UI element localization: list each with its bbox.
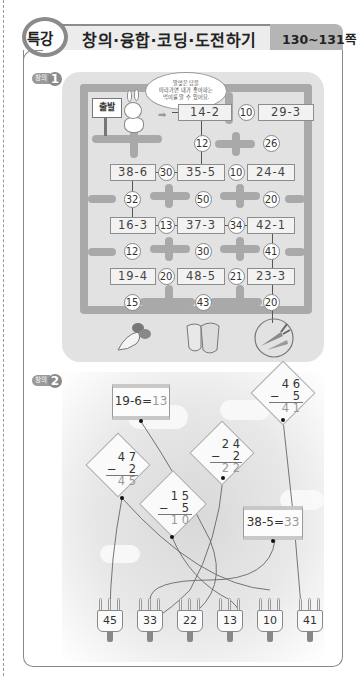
calc-rule	[210, 462, 242, 463]
spool-handle	[307, 632, 313, 642]
string-knot	[221, 476, 225, 480]
minus-sign: −	[159, 501, 169, 515]
spool-10[interactable]: 10	[257, 598, 283, 636]
calc-rule	[106, 475, 138, 476]
box-kite: 19-6=13	[112, 384, 170, 420]
string-knot	[281, 418, 285, 422]
spool-handle	[227, 632, 233, 642]
spool-number: 45	[97, 610, 123, 632]
spool-handle	[107, 632, 113, 642]
kite-expression: 38-5=	[247, 515, 284, 529]
spool-handle	[267, 632, 273, 642]
string-knot	[139, 419, 143, 423]
calc-answer: 2 2	[212, 462, 240, 474]
minus-sign: −	[211, 449, 221, 463]
spool-22[interactable]: 22	[177, 598, 203, 636]
calc-rule	[269, 402, 303, 403]
spool-handle	[147, 632, 153, 642]
kite-expression: 19-6=	[115, 394, 152, 408]
kite-answer: 33	[284, 515, 299, 529]
spool-handle	[187, 632, 193, 642]
spool-33[interactable]: 33	[137, 598, 163, 636]
calc-answer: 4 1	[272, 402, 300, 414]
spool-number: 13	[217, 610, 243, 632]
spool-45[interactable]: 45	[97, 598, 123, 636]
kite-strings	[0, 0, 361, 676]
minus-sign: −	[270, 389, 280, 403]
spool-41[interactable]: 41	[297, 598, 323, 636]
spool-number: 10	[257, 610, 283, 632]
calc-rule	[158, 514, 192, 515]
box-kite: 38-5=33	[243, 506, 303, 540]
string-knot	[120, 496, 124, 500]
string-knot	[170, 535, 174, 539]
spool-number: 33	[137, 610, 163, 632]
calc-answer: 4 5	[108, 475, 136, 487]
spool-number: 41	[297, 610, 323, 632]
calc-answer: 1 0	[161, 514, 189, 526]
minus-sign: −	[107, 462, 117, 476]
kite-answer: 13	[152, 394, 167, 408]
spool-13[interactable]: 13	[217, 598, 243, 636]
spool-number: 22	[177, 610, 203, 632]
string-knot	[271, 539, 275, 543]
